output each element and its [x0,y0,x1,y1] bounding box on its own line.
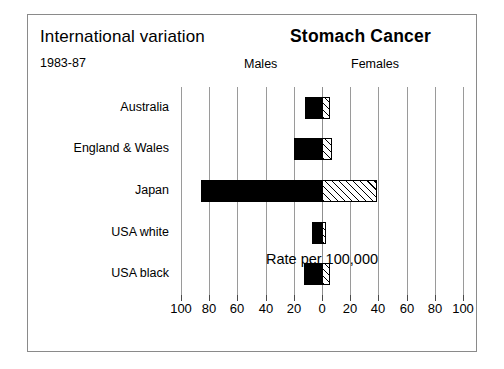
axis-tick-label: 60 [230,301,244,316]
gridline-r100 [463,87,464,295]
bar-males-japan [201,180,322,202]
bar-males-usa-white [312,222,322,244]
bar-females-australia [322,97,330,119]
category-label-england-wales: England & Wales [21,141,169,155]
bar-females-japan [322,180,377,202]
chart-period-label: 1983-87 [40,56,86,70]
gridline-r80 [435,87,436,295]
category-label-japan: Japan [21,183,169,197]
axis-tick-label: 100 [452,301,474,316]
category-label-usa-black: USA black [21,266,169,280]
bar-males-australia [305,97,322,119]
bar-males-england-wales [294,138,322,160]
gridline-r60 [407,87,408,295]
x-axis-title: Rate per 100,000 [266,251,378,267]
chart-figure: International variation 1983-87 Stomach … [27,14,477,352]
axis-tick-label: 20 [343,301,357,316]
chart-title: Stomach Cancer [290,26,431,47]
category-label-usa-white: USA white [21,225,169,239]
bar-females-usa-white [322,222,326,244]
axis-tick-label: 0 [318,301,325,316]
axis-tick-label: 100 [170,301,192,316]
category-label-australia: Australia [21,100,169,114]
series-label-males: Males [244,57,277,71]
axis-tick-label: 80 [202,301,216,316]
axis-tick-label: 20 [287,301,301,316]
axis-tick-label: 40 [259,301,273,316]
gridline-l100 [181,87,182,295]
series-label-females: Females [351,57,399,71]
axis-tick-label: 60 [400,301,414,316]
axis-tick-label: 80 [428,301,442,316]
chart-subtitle: International variation [40,27,205,47]
axis-tick-label: 40 [371,301,385,316]
gridline-r40 [378,87,379,295]
bar-females-england-wales [322,138,332,160]
